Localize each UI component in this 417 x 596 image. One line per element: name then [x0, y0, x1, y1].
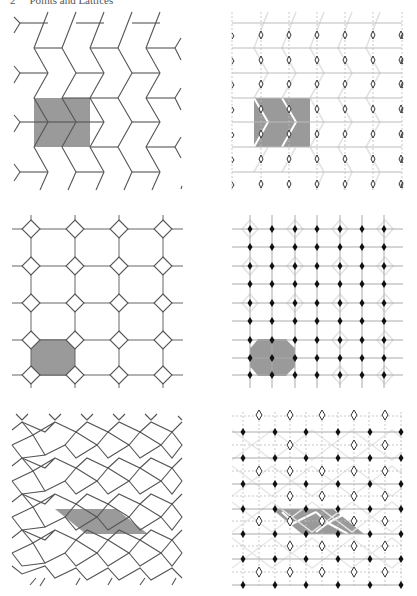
octagon-square-lattice-figure: [220, 200, 417, 390]
chevron-lattice-figure: [220, 0, 417, 200]
rhombus-tiling-figure: [0, 390, 200, 596]
panel-chevron-tiling: [0, 0, 200, 200]
rhombus-lattice-figure: [220, 390, 417, 596]
panel-rhombus-tiling: [0, 390, 200, 596]
panel-rhombus-lattice: [220, 390, 417, 596]
octagon-square-tiling-figure: [0, 200, 200, 390]
panel-octagon-square-lattice: [220, 200, 417, 390]
chevron-tiling-figure: [0, 0, 200, 200]
panel-chevron-lattice: [220, 0, 417, 200]
panel-octagon-square-tiling: [0, 200, 200, 390]
octagon-tile-shade: [31, 339, 75, 376]
